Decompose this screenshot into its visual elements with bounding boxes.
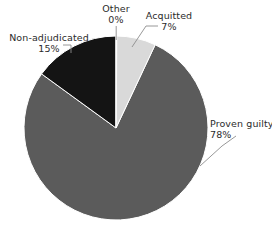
slice-label-acquitted-percent: 7% bbox=[139, 21, 199, 32]
slice-label-proven-guilty: Proven guilty 78% bbox=[210, 118, 272, 140]
slice-label-non-adjudicated-name: Non-adjudicated bbox=[4, 32, 94, 43]
slice-label-proven-guilty-name: Proven guilty bbox=[210, 118, 272, 129]
slice-label-proven-guilty-percent: 78% bbox=[210, 129, 272, 140]
slice-label-non-adjudicated: Non-adjudicated 15% bbox=[4, 32, 94, 54]
slice-label-acquitted-name: Acquitted bbox=[139, 10, 199, 21]
pie-slices bbox=[24, 36, 208, 220]
slice-label-acquitted: Acquitted 7% bbox=[139, 10, 199, 32]
pie-chart-figure: Other 0% Acquitted 7% Non-adjudicated 15… bbox=[0, 0, 272, 228]
slice-label-other-percent: 0% bbox=[94, 14, 138, 25]
slice-label-other: Other 0% bbox=[94, 3, 138, 25]
slice-label-other-name: Other bbox=[94, 3, 138, 14]
slice-label-non-adjudicated-percent: 15% bbox=[4, 43, 94, 54]
